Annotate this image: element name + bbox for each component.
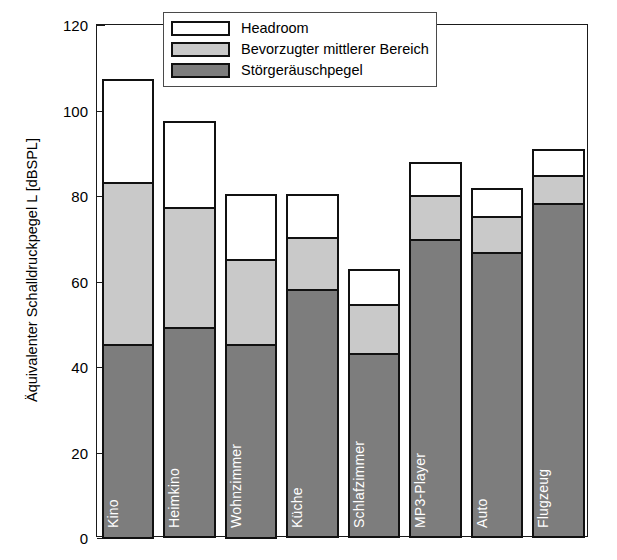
legend-label: Headroom xyxy=(241,21,309,36)
bar-segment xyxy=(532,149,585,177)
bar-segment xyxy=(163,327,216,539)
legend-swatch xyxy=(171,63,230,78)
bar-segment xyxy=(163,207,216,329)
bar-segment xyxy=(409,162,462,197)
bar-segment xyxy=(225,258,278,346)
bar-heimkino[interactable]: Heimkino xyxy=(163,23,216,536)
legend-label: Störgeräuschpegel xyxy=(241,63,363,78)
bar-segment xyxy=(471,215,524,254)
y-tick-label: 80 xyxy=(28,188,97,205)
bar-group: KinoHeimkinoWohnzimmerKücheSchlafzimmerM… xyxy=(97,25,587,536)
bar-segment xyxy=(286,194,339,239)
legend-swatch xyxy=(171,42,230,57)
y-tick-label: 20 xyxy=(28,444,97,461)
bar-segment xyxy=(532,203,585,539)
bar-segment xyxy=(471,188,524,218)
bar-kino[interactable]: Kino xyxy=(102,23,155,536)
bar-segment xyxy=(102,181,155,346)
chart-legend: HeadroomBevorzugter mittlerer BereichStö… xyxy=(163,12,437,87)
bar-segment xyxy=(348,269,401,306)
bar-segment xyxy=(225,344,278,539)
bar-flugzeug[interactable]: Flugzeug xyxy=(532,23,585,536)
bar-mp3-player[interactable]: MP3-Player xyxy=(409,23,462,536)
chart-container: Äquivalenter Schalldruckpegel L [dBSPL] … xyxy=(0,0,617,560)
legend-label: Bevorzugter mittlerer Bereich xyxy=(241,42,429,57)
bar-schlafzimmer[interactable]: Schlafzimmer xyxy=(348,23,401,536)
bar-segment xyxy=(163,121,216,209)
legend-swatch xyxy=(171,21,230,36)
legend-item: Störgeräuschpegel xyxy=(171,60,429,81)
bar-segment xyxy=(348,303,401,355)
legend-item: Headroom xyxy=(171,18,429,39)
bar-segment xyxy=(286,237,339,291)
y-tick-label: 40 xyxy=(28,359,97,376)
bar-segment xyxy=(409,239,462,539)
bar-k-che[interactable]: Küche xyxy=(286,23,339,536)
y-tick-label: 120 xyxy=(28,17,97,34)
bar-segment xyxy=(225,194,278,261)
bar-segment xyxy=(102,344,155,539)
bar-segment xyxy=(286,288,339,538)
bar-auto[interactable]: Auto xyxy=(471,23,524,536)
bar-wohnzimmer[interactable]: Wohnzimmer xyxy=(225,23,278,536)
y-tick-label: 0 xyxy=(28,530,97,547)
bar-segment xyxy=(102,79,155,184)
legend-item: Bevorzugter mittlerer Bereich xyxy=(171,39,429,60)
y-tick-label: 60 xyxy=(28,273,97,290)
y-tick-label: 100 xyxy=(28,102,97,119)
bar-segment xyxy=(348,352,401,538)
plot-area: 020406080100120 KinoHeimkinoWohnzimmerKü… xyxy=(96,24,588,537)
bar-segment xyxy=(409,194,462,241)
bar-segment xyxy=(471,252,524,539)
bar-segment xyxy=(532,175,585,205)
